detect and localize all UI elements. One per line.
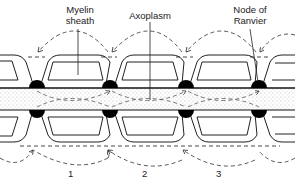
node-leader-line	[250, 29, 258, 82]
lower-current-arcs	[0, 150, 295, 166]
node	[29, 80, 45, 88]
segment-number-2: 2	[142, 168, 147, 179]
segment-number-1: 1	[68, 168, 73, 179]
node	[251, 80, 267, 88]
node	[251, 110, 267, 118]
segment-number-3: 3	[216, 168, 221, 179]
node-of-ranvier-label: Node of Ranvier	[225, 4, 275, 26]
node	[178, 110, 194, 118]
node	[178, 80, 194, 88]
axoplasm-label: Axoplasm	[125, 10, 175, 21]
axoplasm-region	[0, 89, 295, 109]
lower-myelin-sheath	[0, 114, 295, 142]
saltatory-conduction-diagram: Myelin sheath Axoplasm Node of Ranvier 1…	[0, 0, 295, 183]
myelin-sheath-label: Myelin sheath	[60, 4, 100, 26]
upper-myelin-sheath	[0, 55, 295, 84]
upper-current-arcs	[38, 31, 295, 52]
